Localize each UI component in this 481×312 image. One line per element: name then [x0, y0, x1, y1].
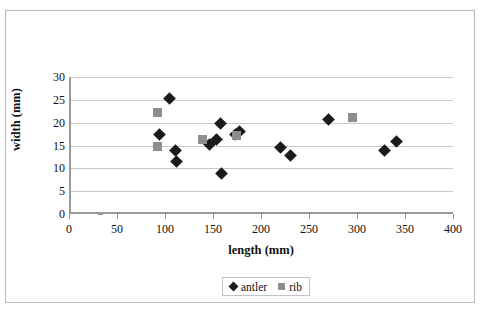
diamond-marker-icon: [229, 282, 239, 292]
legend-entry-rib[interactable]: rib: [278, 281, 302, 293]
x-axis-tickmark: [69, 214, 70, 219]
gridline: [71, 77, 453, 78]
x-axis-tickmark: [405, 214, 406, 219]
plot-area: [69, 77, 453, 214]
legend-entry-antler[interactable]: antler: [230, 281, 267, 293]
gridline: [71, 168, 453, 169]
data-point-antler: [153, 128, 166, 141]
x-axis-tick-400: 400: [433, 223, 473, 236]
gridline: [71, 123, 453, 124]
y-axis-tick-20: 20: [53, 117, 65, 129]
x-axis-tick-250: 250: [289, 223, 329, 236]
data-point-antler: [274, 141, 287, 154]
x-axis-tickmark: [357, 214, 358, 219]
x-axis-tickmark: [453, 214, 454, 219]
x-axis-tickmark: [117, 214, 118, 219]
x-axis-tick-350: 350: [385, 223, 425, 236]
x-axis-tick-200: 200: [241, 223, 281, 236]
x-axis-tickmark: [165, 214, 166, 219]
gridline: [71, 100, 453, 101]
data-point-antler: [322, 114, 335, 127]
y-axis-tick-25: 25: [53, 94, 65, 106]
legend-label: antler: [241, 281, 267, 293]
data-point-rib: [153, 108, 162, 117]
x-axis-tick-300: 300: [337, 223, 377, 236]
chart-legend: antlerrib: [222, 277, 310, 296]
data-point-antler: [214, 117, 227, 130]
data-point-rib: [232, 131, 241, 140]
x-axis-tick-150: 150: [193, 223, 233, 236]
square-marker-icon: [278, 283, 285, 290]
data-point-rib: [348, 113, 357, 122]
x-axis-title: length (mm): [69, 243, 453, 258]
y-axis-tick-15: 15: [53, 140, 65, 152]
y-axis-tickmark: [98, 214, 103, 215]
x-axis-tick-0: 0: [49, 223, 89, 236]
legend-label: rib: [289, 281, 302, 293]
x-axis-tickmark: [213, 214, 214, 219]
scatter-chart-figure: 051015202530 width (mm) length (mm) antl…: [0, 0, 481, 312]
y-axis-tick-labels: 051015202530: [34, 68, 65, 223]
x-axis-tickmark: [309, 214, 310, 219]
data-point-antler: [284, 149, 297, 162]
y-axis-title: width (mm): [9, 60, 24, 180]
y-axis-tick-30: 30: [53, 71, 65, 83]
data-point-rib: [198, 135, 207, 144]
data-point-rib: [153, 142, 162, 151]
data-point-antler: [164, 92, 177, 105]
y-axis-tick-5: 5: [59, 185, 65, 197]
y-axis-tick-10: 10: [53, 162, 65, 174]
data-point-antler: [170, 155, 183, 168]
x-axis-tick-50: 50: [97, 223, 137, 236]
gridline: [71, 191, 453, 192]
y-axis-tick-0: 0: [59, 208, 65, 220]
x-axis-tick-100: 100: [145, 223, 185, 236]
x-axis-tickmark: [261, 214, 262, 219]
